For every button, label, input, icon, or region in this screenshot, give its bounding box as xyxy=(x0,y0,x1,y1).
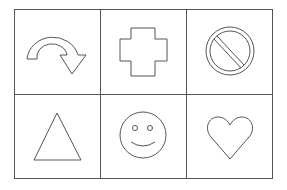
curved-arrow-icon xyxy=(14,9,100,94)
triangle-icon xyxy=(14,94,100,179)
cell-prohibited-sign: No symbol xyxy=(186,9,273,94)
smiley-face-icon xyxy=(100,94,186,179)
prohibited-icon xyxy=(186,9,273,94)
cell-cross: Cross xyxy=(100,9,186,94)
shape-grid: Curved arrow Cross No symbol Triangle Sm… xyxy=(14,9,273,179)
cell-curved-arrow: Curved arrow xyxy=(14,9,100,94)
cell-heart: Heart xyxy=(186,94,273,179)
heart-icon xyxy=(186,94,273,179)
cross-icon xyxy=(100,9,186,94)
cell-triangle: Triangle xyxy=(14,94,100,179)
cell-smiley-face: Smiley face xyxy=(100,94,186,179)
